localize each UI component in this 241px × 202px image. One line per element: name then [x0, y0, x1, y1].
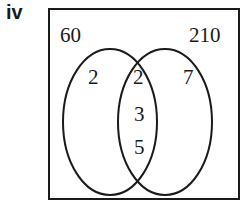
intersection-value-2: 3	[134, 102, 145, 126]
universal-left-value: 60	[60, 23, 81, 47]
intersection-value-3: 5	[134, 135, 145, 159]
right-only-value: 7	[183, 65, 194, 89]
intersection-value-1: 2	[133, 65, 144, 89]
venn-diagram: 60 210 2 2 3 5 7	[0, 0, 241, 202]
universal-right-value: 210	[189, 23, 221, 47]
left-only-value: 2	[88, 65, 99, 89]
